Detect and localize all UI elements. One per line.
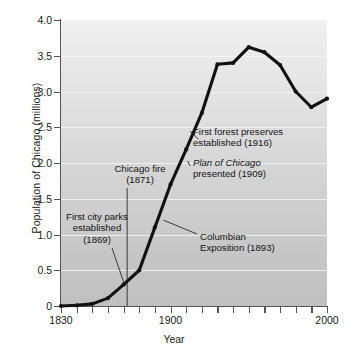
annotation-forest-line1: First forest preserves bbox=[193, 126, 283, 137]
x-axis-tick bbox=[186, 307, 187, 313]
x-axis-title: Year bbox=[0, 333, 348, 345]
y-axis-tick bbox=[54, 127, 61, 128]
x-axis-tick bbox=[77, 307, 78, 313]
x-axis-tick bbox=[264, 307, 265, 313]
gridline bbox=[61, 20, 327, 21]
x-axis-tick-label: 1900 bbox=[159, 314, 182, 326]
annotation-forest-line2: established (1916) bbox=[193, 137, 272, 148]
gridline bbox=[61, 199, 327, 200]
x-axis-tick bbox=[249, 307, 250, 313]
x-axis-tick bbox=[217, 307, 218, 313]
y-axis-tick-labels: 00.51.01.52.02.53.03.54.0 bbox=[0, 0, 52, 353]
y-axis-tick-label: 3.5 bbox=[6, 50, 52, 62]
y-axis-tick bbox=[54, 270, 61, 271]
x-axis-tick bbox=[233, 307, 234, 313]
annotation-fire-line1: Chicago fire bbox=[114, 163, 165, 174]
x-axis-tick-label: 2000 bbox=[315, 314, 338, 326]
x-axis-tick bbox=[280, 307, 281, 313]
y-axis-tick-label: 2.0 bbox=[6, 157, 52, 169]
x-axis-tick bbox=[124, 307, 125, 313]
annotation-plan-line2: presented (1909) bbox=[193, 168, 266, 179]
annotation-first-city-parks: First city parksestablished(1869) bbox=[57, 211, 137, 245]
population-chart-figure: Population of Chicago (millions) 00.51.0… bbox=[0, 0, 348, 353]
x-axis-tick bbox=[171, 307, 172, 313]
gridline bbox=[61, 92, 327, 93]
x-axis-tick bbox=[92, 307, 93, 313]
y-axis-tick bbox=[54, 20, 61, 21]
x-axis-tick bbox=[327, 307, 328, 313]
x-axis-tick-label: 1830 bbox=[49, 314, 72, 326]
annotation-columbian-line2: Exposition (1893) bbox=[200, 242, 275, 253]
annotation-chicago-fire: Chicago fire(1871) bbox=[101, 163, 179, 186]
y-axis-tick bbox=[54, 163, 61, 164]
y-axis-tick bbox=[54, 199, 61, 200]
y-axis-tick-label: 0 bbox=[6, 300, 52, 312]
annotation-plan-title: Plan of Chicago bbox=[193, 157, 261, 168]
y-axis-tick-label: 4.0 bbox=[6, 14, 52, 26]
gridline bbox=[61, 270, 327, 271]
annotation-plan-of-chicago: Plan of Chicagopresented (1909) bbox=[193, 157, 266, 180]
x-axis-line bbox=[60, 306, 328, 307]
x-axis-tick bbox=[202, 307, 203, 313]
x-axis-tick bbox=[296, 307, 297, 313]
x-axis-tick bbox=[139, 307, 140, 313]
annotation-parks-line1: First city parks bbox=[66, 211, 128, 222]
annotation-first-forest-preserves: First forest preservesestablished (1916) bbox=[193, 126, 283, 149]
annotation-parks-line3: (1869) bbox=[83, 234, 111, 245]
annotation-columbian-line1: Columbian bbox=[200, 231, 246, 242]
y-axis-tick-label: 1.0 bbox=[6, 229, 52, 241]
annotation-columbian-exposition: ColumbianExposition (1893) bbox=[200, 231, 275, 254]
x-axis-tick bbox=[311, 307, 312, 313]
y-axis-tick-label: 0.5 bbox=[6, 264, 52, 276]
y-axis-tick-label: 2.5 bbox=[6, 121, 52, 133]
y-axis-tick bbox=[54, 92, 61, 93]
y-axis-tick-label: 1.5 bbox=[6, 193, 52, 205]
gridline bbox=[61, 56, 327, 57]
x-axis-tick bbox=[155, 307, 156, 313]
annotation-parks-line2: established bbox=[73, 222, 122, 233]
annotation-fire-line2: (1871) bbox=[126, 174, 154, 185]
y-axis-tick bbox=[54, 56, 61, 57]
x-axis-tick bbox=[61, 307, 62, 313]
y-axis-tick-label: 3.0 bbox=[6, 86, 52, 98]
x-axis-tick bbox=[108, 307, 109, 313]
y-axis-tick bbox=[54, 306, 61, 307]
